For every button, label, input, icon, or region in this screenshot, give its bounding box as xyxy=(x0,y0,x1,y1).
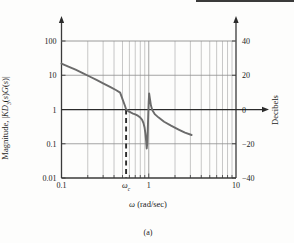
secondary-y-tick-label: 0 xyxy=(242,105,246,114)
figure-panel: Magnitude, |KD3(s)G(s)| Decibels ω (rad/… xyxy=(0,0,294,243)
y-tick-label: 10 xyxy=(49,71,57,80)
secondary-y-axis-arrowhead xyxy=(233,16,238,23)
y-tick-label: 100 xyxy=(45,37,57,46)
zero-db-line-arrowhead xyxy=(262,107,269,113)
y-axis-label: Magnitude, |KD3(s)G(s)| xyxy=(0,76,12,159)
secondary-y-tick-label: 20 xyxy=(242,71,250,80)
x-tick-label: 1 xyxy=(147,181,151,190)
y-tick-label: 0.01 xyxy=(43,174,57,183)
secondary-y-tick-label: −20 xyxy=(242,139,255,148)
crossover-frequency-label: ωc xyxy=(122,181,130,192)
secondary-y-axis-label: Decibels xyxy=(270,95,280,125)
secondary-y-tick-label: −40 xyxy=(242,174,255,183)
secondary-y-tick-label: 40 xyxy=(242,37,250,46)
y-tick-label: 0.1 xyxy=(47,139,57,148)
x-axis-label: ω (rad/sec) xyxy=(129,199,167,209)
figure-caption: (a) xyxy=(144,228,153,237)
y-tick-label: 1 xyxy=(53,105,57,114)
y-axis-arrowhead xyxy=(59,16,64,23)
x-tick-label: 0.1 xyxy=(57,181,67,190)
annotations-group xyxy=(62,107,270,178)
page-top-rule xyxy=(196,0,294,2)
x-tick-label: 10 xyxy=(232,181,240,190)
